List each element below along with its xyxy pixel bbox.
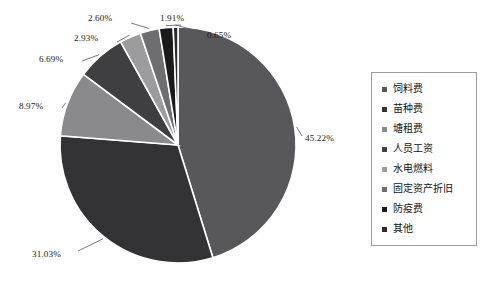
- chart-legend: 饲料费苗种费塘租费人员工资水电燃料固定资产折旧防疫费其他: [371, 72, 477, 246]
- legend-marker-icon: [382, 107, 387, 112]
- legend-item[interactable]: 饲料费: [372, 79, 476, 99]
- legend-item[interactable]: 水电燃料: [372, 159, 476, 179]
- legend-marker-icon: [382, 227, 387, 232]
- legend-marker-icon: [382, 147, 387, 152]
- legend-item-label: 苗种费: [393, 104, 423, 114]
- legend-item-label: 防疫费: [393, 204, 423, 214]
- slice-label-staff-wages: 6.69%: [39, 54, 63, 64]
- slice-label-seedling: 31.03%: [32, 249, 61, 259]
- legend-item[interactable]: 人员工资: [372, 139, 476, 159]
- legend-marker-icon: [382, 207, 387, 212]
- legend-item[interactable]: 防疫费: [372, 199, 476, 219]
- slice-label-other: 0.65%: [207, 30, 231, 40]
- leader-line: [131, 23, 149, 29]
- legend-item-label: 其他: [393, 224, 413, 234]
- leader-line: [297, 127, 302, 136]
- legend-marker-icon: [382, 127, 387, 132]
- legend-item[interactable]: 苗种费: [372, 99, 476, 119]
- pie-chart-figure: 45.22% 31.03% 8.97% 6.69% 2.93% 2.60% 1.…: [0, 0, 486, 282]
- legend-marker-icon: [382, 167, 387, 172]
- legend-item-label: 固定资产折旧: [393, 184, 453, 194]
- legend-item-label: 塘租费: [393, 124, 423, 134]
- leader-line: [78, 239, 103, 251]
- slice-label-utilities: 2.93%: [74, 33, 98, 43]
- slice-label-pond-rent: 8.97%: [19, 101, 43, 111]
- legend-marker-icon: [382, 187, 387, 192]
- legend-item-label: 人员工资: [393, 144, 433, 154]
- slice-label-feed: 45.22%: [305, 133, 334, 143]
- legend-item-label: 水电燃料: [393, 164, 433, 174]
- legend-marker-icon: [382, 87, 387, 92]
- slice-label-epidemic: 1.91%: [160, 13, 184, 23]
- pie-slices-group: [60, 27, 296, 263]
- legend-item[interactable]: 固定资产折旧: [372, 179, 476, 199]
- legend-item[interactable]: 其他: [372, 219, 476, 239]
- legend-item[interactable]: 塘租费: [372, 119, 476, 139]
- slice-label-depreciation: 2.60%: [88, 13, 112, 23]
- legend-item-label: 饲料费: [393, 84, 423, 94]
- leader-line: [62, 103, 66, 108]
